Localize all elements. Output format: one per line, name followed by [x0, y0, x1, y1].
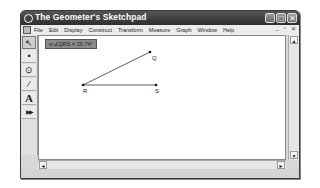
menu-edit[interactable]: Edit [49, 27, 58, 33]
menu-file[interactable]: File [34, 27, 43, 33]
app-window: The Geometer's Sketchpad _ □ ✕ File Edit… [20, 10, 300, 179]
menu-construct[interactable]: Construct [88, 27, 112, 33]
straightedge-icon: ⁄ [28, 79, 30, 89]
app-icon[interactable] [24, 14, 33, 23]
point-r[interactable] [82, 84, 85, 87]
label-s[interactable]: S [155, 88, 159, 94]
window-title: The Geometer's Sketchpad [35, 12, 147, 22]
menu-help[interactable]: Help [223, 27, 234, 33]
menu-measure[interactable]: Measure [149, 27, 170, 33]
sketch-drawing [39, 36, 285, 159]
compass-tool[interactable]: ⊙ [22, 64, 36, 77]
horizontal-scrollbar[interactable]: ◄ ► [38, 160, 286, 169]
menu-window[interactable]: Window [198, 27, 218, 33]
compass-icon: ⊙ [25, 65, 33, 75]
selection-arrow-tool[interactable]: ↖ [22, 36, 36, 49]
status-bar [21, 169, 299, 178]
title-bar[interactable]: The Geometer's Sketchpad _ □ ✕ [21, 11, 299, 25]
doc-minimize-button[interactable]: _ [276, 25, 279, 32]
minimize-button[interactable]: _ [265, 13, 275, 23]
point-q[interactable] [149, 51, 152, 54]
menu-transform[interactable]: Transform [118, 27, 143, 33]
scroll-down-button[interactable]: ▼ [290, 151, 298, 159]
scroll-right-button[interactable]: ► [277, 161, 285, 169]
maximize-button[interactable]: □ [276, 13, 286, 23]
menu-display[interactable]: Display [64, 27, 82, 33]
menu-graph[interactable]: Graph [176, 27, 191, 33]
toolbox: ↖ • ⊙ ⁄ A ▶▶ [21, 35, 38, 155]
custom-tool[interactable]: ▶▶ [22, 106, 36, 119]
label-r[interactable]: R [83, 88, 87, 94]
scroll-left-button[interactable]: ◄ [39, 161, 47, 169]
scroll-up-button[interactable]: ▲ [290, 36, 298, 44]
point-s[interactable] [155, 84, 158, 87]
point-tool[interactable]: • [22, 50, 36, 63]
doc-restore-button[interactable]: ▫ [284, 25, 286, 32]
sketch-canvas[interactable]: m∠QRS = 26.74° Q R S [38, 35, 286, 160]
menu-bar: File Edit Display Construct Transform Me… [21, 25, 299, 35]
straightedge-tool[interactable]: ⁄ [22, 78, 36, 91]
text-icon: A [25, 92, 33, 104]
text-tool[interactable]: A [22, 92, 36, 105]
arrow-icon: ↖ [25, 38, 33, 48]
label-q[interactable]: Q [152, 55, 157, 61]
doc-close-button[interactable]: ✕ [291, 25, 296, 32]
custom-tool-icon: ▶▶ [26, 109, 32, 115]
document-icon[interactable] [23, 26, 31, 34]
vertical-scrollbar[interactable]: ▲ ▼ [288, 35, 299, 160]
segment-rq[interactable] [83, 52, 150, 85]
close-button[interactable]: ✕ [287, 13, 297, 23]
point-icon: • [27, 51, 30, 61]
